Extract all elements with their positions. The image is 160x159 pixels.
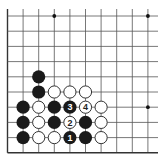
- black-stone: [48, 101, 61, 114]
- black-stone-icon: [32, 85, 45, 98]
- black-stone: [32, 85, 45, 98]
- go-board: 3421: [0, 0, 160, 159]
- white-stone: [95, 101, 107, 113]
- black-stone: [48, 116, 61, 129]
- star-point-icon: [52, 14, 56, 18]
- white-stone-icon: [64, 86, 76, 98]
- white-stone-icon: [95, 132, 107, 144]
- black-stone: [79, 116, 92, 129]
- black-stone-icon: [17, 131, 30, 144]
- white-stone-icon: [33, 132, 45, 144]
- move-number-label: 1: [67, 133, 72, 143]
- go-board-diagram: 3421: [0, 0, 160, 159]
- black-stone-icon: [79, 131, 92, 144]
- white-stone-icon: [33, 116, 45, 128]
- black-stone-icon: [48, 116, 61, 129]
- white-stone: [48, 86, 60, 98]
- star-point-icon: [146, 105, 150, 109]
- white-stone: [95, 132, 107, 144]
- star-point-icon: [146, 14, 150, 18]
- white-stone-icon: [95, 101, 107, 113]
- black-stone: [79, 131, 92, 144]
- move-number-label: 3: [67, 102, 72, 112]
- white-stone: [33, 101, 45, 113]
- black-stone-icon: [48, 101, 61, 114]
- grid-lines: [8, 9, 159, 153]
- black-stone-icon: [79, 116, 92, 129]
- black-stone: [17, 131, 30, 144]
- white-stone: [64, 86, 76, 98]
- black-stone-icon: [17, 101, 30, 114]
- black-stone-icon: [17, 116, 30, 129]
- white-stone: [95, 116, 107, 128]
- move-number-label: 4: [83, 102, 88, 112]
- white-stone-icon: [95, 116, 107, 128]
- black-stone-icon: [32, 70, 45, 83]
- white-stone: [79, 86, 91, 98]
- white-stone-move-4: 4: [79, 101, 91, 113]
- white-stone-icon: [48, 86, 60, 98]
- white-stone-move-2: 2: [64, 116, 76, 128]
- white-stone-icon: [79, 86, 91, 98]
- black-stone: [17, 101, 30, 114]
- white-stone-icon: [33, 101, 45, 113]
- white-stone: [48, 132, 60, 144]
- white-stone: [33, 116, 45, 128]
- black-stone-move-1: 1: [63, 131, 76, 144]
- white-stone: [33, 132, 45, 144]
- white-stone-icon: [48, 132, 60, 144]
- move-number-label: 2: [67, 118, 72, 128]
- black-stone: [32, 70, 45, 83]
- black-stone: [17, 116, 30, 129]
- black-stone-move-3: 3: [63, 101, 76, 114]
